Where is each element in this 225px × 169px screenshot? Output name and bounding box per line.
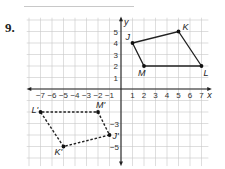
vertex-label: K bbox=[183, 22, 190, 32]
x-tick-label: −7 bbox=[36, 91, 46, 100]
y-tick-label: 5 bbox=[114, 28, 119, 37]
x-tick-label: −5 bbox=[59, 91, 69, 100]
y-axis-label: y bbox=[123, 17, 129, 27]
x-tick-label: 1 bbox=[130, 91, 135, 100]
x-tick-label: 4 bbox=[165, 91, 170, 100]
y-axis-up-arrow-icon bbox=[119, 17, 123, 22]
x-axis-label: x bbox=[206, 90, 212, 100]
x-tick-label: −3 bbox=[82, 91, 92, 100]
y-tick-label: 3 bbox=[114, 51, 119, 60]
x-tick-label: −6 bbox=[47, 91, 57, 100]
y-tick-label: −3 bbox=[110, 120, 120, 129]
y-tick-label: 2 bbox=[114, 62, 119, 71]
original-quadrilateral-JKLM: JKLM bbox=[125, 22, 209, 79]
x-tick-label: 2 bbox=[142, 91, 147, 100]
x-tick-label: 3 bbox=[153, 91, 158, 100]
coordinate-plane: −7−6−5−4−3−2−11234567x12345−3−5y JKLM J'… bbox=[0, 0, 225, 169]
vertex-point bbox=[108, 133, 112, 137]
y-tick-label: 1 bbox=[114, 74, 119, 83]
vertex-label: K' bbox=[55, 147, 63, 157]
vertex-label: J' bbox=[112, 131, 120, 141]
y-tick-label: 4 bbox=[114, 39, 119, 48]
x-tick-label: 7 bbox=[199, 91, 204, 100]
vertex-label: L bbox=[204, 68, 209, 78]
vertex-label: M bbox=[138, 68, 146, 78]
vertex-point bbox=[39, 110, 43, 114]
vertex-label: L' bbox=[32, 105, 39, 115]
vertex-label: M' bbox=[96, 100, 105, 110]
x-tick-label: −4 bbox=[70, 91, 80, 100]
x-tick-label: −1 bbox=[105, 91, 115, 100]
vertex-point bbox=[131, 41, 135, 45]
y-axis-down-arrow-icon bbox=[119, 161, 123, 166]
vertex-point bbox=[96, 110, 100, 114]
vertex-point bbox=[177, 30, 181, 34]
vertex-label: J bbox=[125, 32, 131, 42]
x-tick-label: −2 bbox=[93, 91, 103, 100]
x-tick-label: 6 bbox=[188, 91, 193, 100]
y-tick-label: −5 bbox=[110, 143, 120, 152]
x-tick-label: 5 bbox=[176, 91, 181, 100]
tick-labels: −7−6−5−4−3−2−11234567x12345−3−5y bbox=[36, 17, 212, 152]
